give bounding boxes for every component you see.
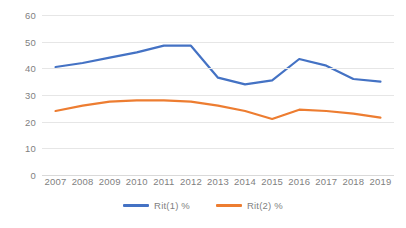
x-tick-label-2011: 2011 [153,176,174,187]
x-tick-label-2017: 2017 [315,176,337,187]
series-line-1 [56,46,381,85]
gridline-20 [42,122,394,123]
gridline-10 [42,148,394,149]
chart-legend: Rit(1) % Rit(2) % [0,200,406,211]
x-tick-label-2010: 2010 [126,176,148,187]
series-lines [0,0,406,228]
x-tick-label-2018: 2018 [342,176,364,187]
gridline-40 [42,68,394,69]
x-tick-label-2014: 2014 [234,176,256,187]
legend-label-rit2: Rit(2) % [247,200,283,211]
line-chart: 0102030405060 Rit(1) % Rit(2) % 20072008… [0,0,406,228]
x-tick-label-2007: 2007 [45,176,67,187]
gridline-50 [42,42,394,43]
legend-swatch-rit2 [216,204,242,207]
x-tick-label-2013: 2013 [207,176,229,187]
series-line-2 [56,100,381,119]
x-tick-label-2016: 2016 [288,176,310,187]
x-tick-label-2019: 2019 [369,176,391,187]
x-tick-label-2012: 2012 [180,176,202,187]
gridline-30 [42,95,394,96]
legend-item-rit2[interactable]: Rit(2) % [216,200,283,211]
legend-label-rit1: Rit(1) % [154,200,190,211]
x-tick-label-2008: 2008 [72,176,94,187]
legend-item-rit1[interactable]: Rit(1) % [123,200,190,211]
legend-swatch-rit1 [123,204,149,207]
gridline-60 [42,15,394,16]
x-tick-label-2015: 2015 [261,176,283,187]
x-tick-label-2009: 2009 [99,176,121,187]
